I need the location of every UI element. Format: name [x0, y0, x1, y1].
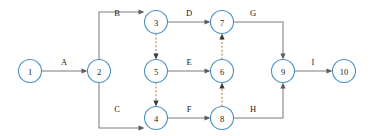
edge-h-line [234, 87, 284, 118]
edge-h-arrowhead-icon [280, 83, 285, 89]
edge-b[interactable] [99, 9, 145, 59]
edge-label-d: D [186, 8, 192, 18]
edge-dummy-5-4[interactable] [153, 83, 158, 107]
node-6-label: 6 [220, 67, 224, 77]
edge-i-arrowhead-icon [327, 68, 333, 73]
node-10-label: 10 [340, 67, 349, 77]
edge-a-arrowhead-icon [82, 68, 88, 73]
edge-a[interactable] [42, 68, 88, 73]
edge-d[interactable] [168, 19, 211, 24]
edge-dummy-5-4-arrowhead-icon [153, 101, 158, 107]
node-10[interactable]: 10 [333, 60, 356, 83]
node-3-label: 3 [154, 18, 158, 28]
edge-label-h: H [250, 104, 256, 114]
activity-network-diagram: A B C D E F G H I 1 2 3 [0, 0, 373, 136]
node-5[interactable]: 5 [145, 60, 168, 83]
edge-label-f: F [187, 104, 192, 114]
edge-e-arrowhead-icon [205, 68, 211, 73]
node-6[interactable]: 6 [211, 60, 234, 83]
edge-dummy-6-7[interactable] [219, 34, 224, 60]
edge-i[interactable] [295, 68, 333, 73]
edge-f-arrowhead-icon [205, 115, 211, 120]
node-8-label: 8 [220, 114, 224, 124]
node-9-label: 9 [281, 67, 285, 77]
edge-b-arrowhead-icon [139, 9, 145, 14]
edge-g[interactable] [234, 22, 286, 60]
edge-g-line [234, 22, 284, 55]
edge-label-g: G [250, 8, 256, 18]
network-canvas: A B C D E F G H I 1 2 3 [0, 0, 373, 136]
node-2-label: 2 [97, 67, 101, 77]
edge-g-arrowhead-icon [280, 54, 285, 60]
edge-c[interactable] [99, 83, 145, 131]
edge-h[interactable] [234, 83, 286, 119]
edge-dummy-6-7-arrowhead-icon [219, 34, 224, 40]
node-1[interactable]: 1 [19, 60, 42, 83]
edge-label-c: C [114, 104, 120, 114]
edge-b-line [99, 12, 140, 60]
edge-label-b: B [114, 8, 120, 18]
edge-dummy-3-5-arrowhead-icon [153, 54, 158, 60]
edge-d-arrowhead-icon [205, 19, 211, 24]
node-7-label: 7 [220, 18, 224, 28]
edge-dummy-8-6-arrowhead-icon [219, 83, 224, 89]
edge-dummy-8-6[interactable] [219, 83, 224, 107]
node-4[interactable]: 4 [145, 107, 168, 130]
edge-label-e: E [186, 57, 191, 67]
edge-c-arrowhead-icon [139, 125, 145, 130]
node-2[interactable]: 2 [88, 60, 111, 83]
edge-e[interactable] [168, 68, 211, 73]
node-1-label: 1 [28, 67, 32, 77]
node-8[interactable]: 8 [211, 107, 234, 130]
edge-label-i: I [312, 57, 315, 67]
node-5-label: 5 [154, 67, 158, 77]
node-9[interactable]: 9 [272, 60, 295, 83]
edge-label-a: A [61, 57, 68, 67]
edge-f[interactable] [168, 115, 211, 120]
node-7[interactable]: 7 [211, 11, 234, 34]
node-3[interactable]: 3 [145, 11, 168, 34]
edge-dummy-3-5[interactable] [153, 34, 158, 60]
